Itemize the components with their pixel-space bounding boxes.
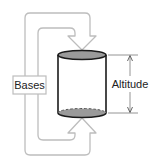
altitude-label-text: Altitude	[112, 78, 149, 90]
bases-label-text: Bases	[14, 79, 45, 91]
bottom-arrow-outline	[25, 94, 96, 155]
top-base	[58, 51, 106, 60]
cylinder-diagram: Bases Altitude	[0, 0, 154, 165]
top-arrow-outline	[25, 13, 96, 76]
bases-label: Bases	[13, 76, 46, 94]
cylinder	[58, 51, 106, 118]
